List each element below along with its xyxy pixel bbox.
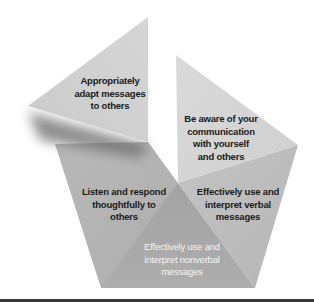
label-aware: Be aware of your communication with your… — [176, 113, 266, 163]
label-nonverbal: Effectively use and interpret nonverbal … — [132, 241, 232, 279]
label-verbal: Effectively use and interpret verbal mes… — [188, 186, 288, 224]
label-listen: Listen and respond thoughtfully to other… — [74, 186, 174, 224]
label-adapt: Appropriately adapt messages to others — [70, 75, 150, 113]
bottom-rule — [0, 299, 314, 302]
